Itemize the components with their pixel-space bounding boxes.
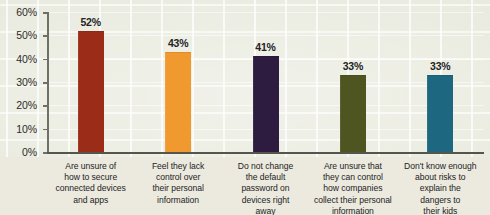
category-label-line: their personal — [134, 183, 221, 194]
category-label-line: Are unsure of — [47, 161, 134, 172]
category-label: Don't know enoughabout risks toexplain t… — [397, 161, 484, 215]
bar-value-label: 52% — [80, 16, 100, 28]
y-axis-tick-label: 0% — [22, 146, 37, 158]
y-axis-tick-label: 30% — [16, 76, 37, 88]
y-axis-tick-label: 40% — [16, 53, 37, 65]
y-axis-tick: 0% — [43, 152, 47, 154]
category-label-line: the default — [222, 172, 309, 183]
y-axis-tick: 20% — [43, 105, 47, 107]
y-axis-tick: 10% — [43, 129, 47, 131]
category-label-line: they can control — [309, 172, 396, 183]
plot-area: 0%10%20%30%40%50%60% 52%43%41%33%33% — [47, 10, 484, 153]
category-label: Feel they lackcontrol overtheir personal… — [134, 161, 221, 206]
category-label-line: explain the — [397, 183, 484, 194]
bar: 33% — [427, 75, 453, 152]
category-label-line: how companies — [309, 183, 396, 194]
x-axis-line — [47, 152, 484, 154]
bar-texture — [78, 31, 104, 152]
y-axis-tick-label: 10% — [16, 123, 37, 135]
gridline — [48, 35, 484, 36]
category-label-line: password on — [222, 183, 309, 194]
category-label-line: about risks to — [397, 172, 484, 183]
category-label-line: connected devices — [47, 183, 134, 194]
bar-texture — [427, 75, 453, 152]
bar: 43% — [165, 52, 191, 152]
bar-value-label: 33% — [430, 60, 450, 72]
category-label-line: control over — [134, 172, 221, 183]
y-axis-line — [47, 12, 49, 153]
y-axis-tick-label: 50% — [16, 29, 37, 41]
category-label-line: how to secure — [47, 172, 134, 183]
bar: 52% — [78, 31, 104, 152]
y-axis-tick-label: 20% — [16, 99, 37, 111]
y-axis-tick-label: 60% — [16, 6, 37, 18]
category-label-line: away — [222, 206, 309, 215]
category-label-line: Do not change — [222, 161, 309, 172]
category-label: Are unsure ofhow to secureconnected devi… — [47, 161, 134, 206]
bar-value-label: 33% — [343, 60, 363, 72]
category-label-line: and apps — [47, 195, 134, 206]
bar-value-label: 43% — [168, 37, 188, 49]
category-label-line: their kids — [397, 206, 484, 215]
category-label-line: collect their personal — [309, 195, 396, 206]
category-label: Do not changethe defaultpassword ondevic… — [222, 161, 309, 215]
bar-chart: 0%10%20%30%40%50%60% 52%43%41%33%33% Are… — [0, 0, 490, 215]
category-label-line: Feel they lack — [134, 161, 221, 172]
bar-texture — [165, 52, 191, 152]
bar: 33% — [340, 75, 366, 152]
bar: 41% — [253, 56, 279, 152]
category-label-line: dangers to — [397, 195, 484, 206]
category-label-line: information — [134, 195, 221, 206]
category-label-line: information — [309, 206, 396, 215]
y-axis-tick: 60% — [43, 12, 47, 14]
gridline — [48, 12, 484, 13]
bar-value-label: 41% — [255, 41, 275, 53]
bar-texture — [253, 56, 279, 152]
category-label-line: Are unsure that — [309, 161, 396, 172]
bar-texture — [340, 75, 366, 152]
y-axis-tick: 30% — [43, 82, 47, 84]
y-axis-tick: 40% — [43, 59, 47, 61]
category-label: Are unsure thatthey can controlhow compa… — [309, 161, 396, 215]
y-axis-tick: 50% — [43, 35, 47, 37]
category-label-line: Don't know enough — [397, 161, 484, 172]
category-label-line: devices right — [222, 195, 309, 206]
